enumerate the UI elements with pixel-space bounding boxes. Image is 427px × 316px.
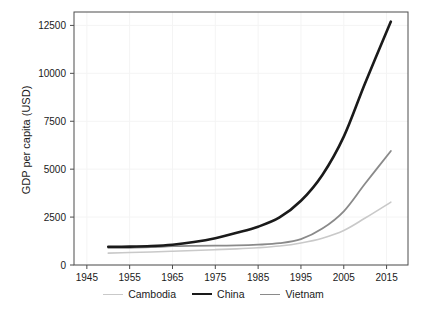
- x-tick-label: 1965: [161, 272, 183, 283]
- y-tick-label: 0: [18, 260, 66, 271]
- gdp-per-capita-line-chart: GDP per capita (USD) 0250050007500100001…: [0, 0, 427, 316]
- x-tick-label: 1975: [204, 272, 226, 283]
- y-tick-label: 5000: [18, 164, 66, 175]
- x-tick-label: 1955: [119, 272, 141, 283]
- gridlines: [74, 12, 408, 265]
- chart-legend: CambodiaChinaVietnam: [0, 288, 427, 300]
- y-tick-label: 10000: [18, 68, 66, 79]
- x-tick-label: 2015: [375, 272, 397, 283]
- legend-label: Vietnam: [285, 288, 323, 300]
- x-tick-label: 1995: [290, 272, 312, 283]
- x-tick-label: 1985: [247, 272, 269, 283]
- legend-line-icon: [103, 294, 123, 295]
- x-tick-label: 2005: [333, 272, 355, 283]
- y-tick-label: 2500: [18, 212, 66, 223]
- series-line-china: [108, 22, 391, 247]
- legend-line-icon: [260, 294, 280, 295]
- legend-item-vietnam[interactable]: Vietnam: [260, 288, 323, 300]
- series-line-vietnam: [108, 151, 391, 248]
- y-tick-label: 12500: [18, 20, 66, 31]
- legend-label: China: [217, 288, 244, 300]
- x-tick-label: 1945: [76, 272, 98, 283]
- y-tick-label: 7500: [18, 116, 66, 127]
- legend-line-icon: [192, 293, 212, 295]
- legend-item-cambodia[interactable]: Cambodia: [103, 288, 176, 300]
- legend-item-china[interactable]: China: [192, 288, 244, 300]
- legend-label: Cambodia: [128, 288, 176, 300]
